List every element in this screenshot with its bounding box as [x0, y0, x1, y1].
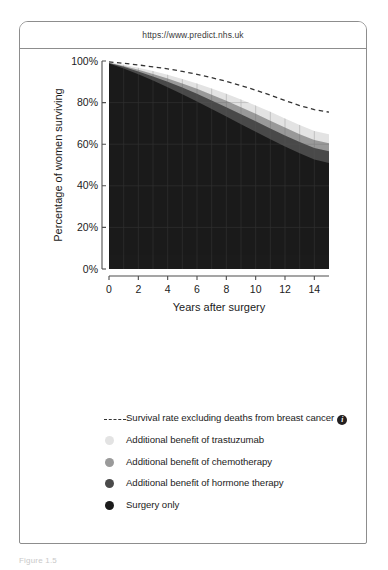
- legend-item-label: Additional benefit of trastuzumab: [126, 434, 264, 447]
- color-dot-icon: [104, 456, 126, 467]
- x-tick-label: 4: [165, 283, 171, 295]
- dashed-line-swatch: [104, 419, 126, 420]
- figure-caption: Figure 1.5: [19, 556, 57, 565]
- x-tick-label: 2: [135, 283, 141, 295]
- browser-window: https://www.predict.nhs.uk 0%20%40%60%80…: [19, 21, 367, 544]
- x-tick-label: 14: [308, 283, 320, 295]
- x-tick-label: 6: [194, 283, 200, 295]
- legend-item[interactable]: Survival rate excluding deaths from brea…: [104, 412, 354, 425]
- legend-item-label: Additional benefit of chemotherapy: [126, 456, 272, 469]
- legend-item[interactable]: Additional benefit of hormone therapy: [104, 477, 354, 490]
- x-tick-label: 0: [106, 283, 112, 295]
- legend-item-label: Surgery only: [126, 499, 179, 512]
- color-dot-icon: [104, 499, 126, 510]
- legend-item[interactable]: Additional benefit of chemotherapy: [104, 456, 354, 469]
- dashed-line-icon: [104, 412, 126, 420]
- legend-item[interactable]: Surgery only: [104, 499, 354, 512]
- x-axis-title: Years after surgery: [173, 301, 266, 313]
- x-tick-label: 12: [279, 283, 291, 295]
- color-swatch: [105, 479, 114, 488]
- page-body: 0%20%40%60%80%100%02468101214Years after…: [20, 49, 366, 544]
- y-tick-label: 0%: [83, 263, 98, 275]
- x-tick-label: 8: [223, 283, 229, 295]
- legend-item-label: Additional benefit of hormone therapy: [126, 477, 284, 490]
- legend-item[interactable]: Additional benefit of trastuzumab: [104, 434, 354, 447]
- browser-url-bar[interactable]: https://www.predict.nhs.uk: [20, 22, 366, 49]
- y-tick-label: 80%: [77, 96, 98, 108]
- y-tick-label: 100%: [71, 55, 98, 67]
- color-swatch: [105, 458, 114, 467]
- legend-item-label: Survival rate excluding deaths from brea…: [126, 412, 347, 425]
- y-axis-title: Percentage of women surviving: [52, 88, 64, 241]
- color-dot-icon: [104, 434, 126, 445]
- y-tick-label: 60%: [77, 138, 98, 150]
- y-tick-label: 40%: [77, 179, 98, 191]
- x-tick-label: 10: [250, 283, 262, 295]
- survival-chart: 0%20%40%60%80%100%02468101214Years after…: [20, 49, 366, 369]
- color-swatch: [105, 436, 114, 445]
- color-swatch: [105, 501, 114, 510]
- color-dot-icon: [104, 477, 126, 488]
- info-icon[interactable]: i: [337, 415, 347, 425]
- chart-legend: Survival rate excluding deaths from brea…: [104, 412, 354, 520]
- y-tick-label: 20%: [77, 221, 98, 233]
- chart-canvas: 0%20%40%60%80%100%02468101214Years after…: [20, 49, 366, 369]
- url-text: https://www.predict.nhs.uk: [142, 30, 243, 40]
